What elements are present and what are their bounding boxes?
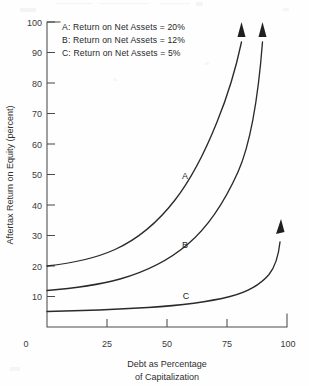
curve-a <box>47 22 246 266</box>
y-tick-label: 30 <box>32 231 42 241</box>
x-tick-label: 75 <box>222 339 232 349</box>
return-on-equity-chart: 100 90 80 70 60 50 40 30 20 10 0 25 50 7… <box>0 0 309 386</box>
curve-b-arrowhead <box>259 22 267 37</box>
x-tick-label: 100 <box>280 339 295 349</box>
x-axis-tick-labels: 0 25 50 75 100 <box>23 339 295 349</box>
legend-entry-a: A: Return on Net Assets = 20% <box>62 22 185 32</box>
curve-b <box>47 22 267 291</box>
chart-figure: 100 90 80 70 60 50 40 30 20 10 0 25 50 7… <box>0 0 309 386</box>
x-axis-ticks <box>107 319 227 327</box>
curve-label-a: A <box>182 171 188 181</box>
x-tick-label: 0 <box>23 339 28 349</box>
y-tick-label: 40 <box>32 201 42 211</box>
legend-entry-b: B: Return on Net Assets = 12% <box>62 35 185 45</box>
legend: A: Return on Net Assets = 20% B: Return … <box>62 22 185 58</box>
y-tick-label: 70 <box>32 109 42 119</box>
y-tick-label: 80 <box>32 79 42 89</box>
y-tick-label: 10 <box>32 292 42 302</box>
plot-frame <box>47 22 287 327</box>
legend-entry-c: C: Return on Net Assets = 5% <box>62 48 181 58</box>
y-tick-label: 50 <box>32 170 42 180</box>
y-axis-title: Aftertax Return on Equity (percent) <box>5 105 15 244</box>
x-axis-title-line1: Debt as Percentage <box>127 359 207 369</box>
y-tick-label: 90 <box>32 48 42 58</box>
y-tick-label: 20 <box>32 262 42 272</box>
x-tick-label: 25 <box>102 339 112 349</box>
y-tick-label: 100 <box>27 18 42 28</box>
y-axis-tick-labels: 100 90 80 70 60 50 40 30 20 10 <box>27 18 42 303</box>
curve-a-arrowhead <box>238 22 246 37</box>
y-tick-label: 60 <box>32 140 42 150</box>
x-tick-label: 50 <box>162 339 172 349</box>
y-axis-ticks <box>47 22 55 297</box>
curve-c <box>47 219 285 312</box>
curve-label-b: B <box>182 240 188 250</box>
curve-c-arrowhead <box>276 219 285 234</box>
x-axis-title-line2: of Capitalization <box>135 372 199 382</box>
curve-label-c: C <box>183 291 190 301</box>
